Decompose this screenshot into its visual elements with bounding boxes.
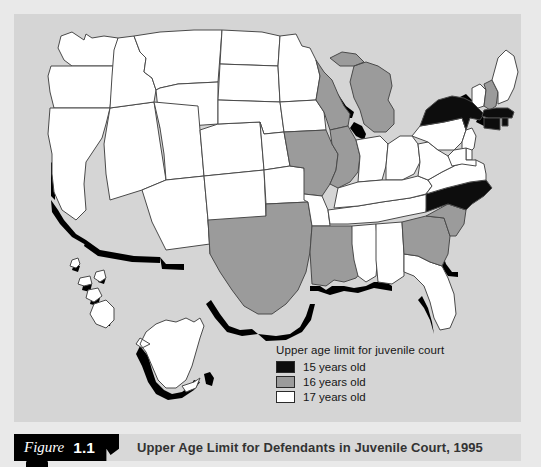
figure-number-tag: Figure 1.1 [14,434,119,461]
legend-label-15: 15 years old [303,361,366,373]
state-HI-bigisland[interactable] [90,300,114,328]
us-choropleth-map: .st{stroke:#4a4a4a;stroke-width:1;stroke… [14,14,521,422]
legend-swatch-15 [276,361,295,373]
state-OK[interactable] [264,166,308,204]
figure-caption-text: Upper Age Limit for Defendants in Juveni… [119,434,521,461]
state-OR[interactable] [48,66,114,108]
state-AL[interactable] [376,222,404,284]
map-legend: Upper age limit for juvenile court 15 ye… [276,344,444,406]
state-group-noncontiguous [70,258,204,392]
state-MA[interactable] [482,108,514,118]
legend-swatch-17 [276,391,295,403]
legend-label-16: 16 years old [303,376,366,388]
figure-word-label: Figure [24,440,64,455]
legend-title: Upper age limit for juvenile court [276,344,444,356]
legend-item-16: 16 years old [276,376,444,388]
legend-swatch-16 [276,376,295,388]
state-OH[interactable] [386,136,420,180]
state-HI-maui[interactable] [86,288,102,302]
figure-caption-bar: Figure 1.1 Upper Age Limit for Defendant… [14,434,521,461]
state-TX[interactable] [208,202,312,314]
map-panel: .st{stroke:#4a4a4a;stroke-width:1;stroke… [14,14,521,422]
state-RI[interactable] [502,118,508,126]
legend-item-15: 15 years old [276,361,444,373]
legend-item-17: 17 years old [276,391,444,403]
state-AZ[interactable] [142,176,210,250]
figure-number-label: 1.1 [73,440,95,456]
state-CA[interactable] [48,108,110,220]
state-HI-molokai[interactable] [78,276,92,286]
legend-label-17: 17 years old [303,391,366,403]
state-MN[interactable] [278,34,320,102]
state-DE[interactable] [466,148,472,160]
print-artifact-mark [26,459,48,467]
state-IN[interactable] [356,136,388,182]
state-SD[interactable] [218,64,280,102]
state-CT[interactable] [484,118,500,130]
state-ND[interactable] [220,30,280,66]
state-WA[interactable] [58,32,118,66]
state-CO[interactable] [200,122,264,176]
